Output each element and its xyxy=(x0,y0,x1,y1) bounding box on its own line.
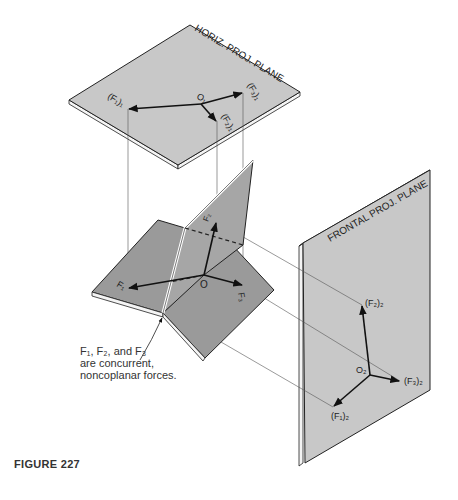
frontal-f2-label: (F₂)₂ xyxy=(365,298,384,308)
space-figure-planes xyxy=(92,160,274,361)
diagram-canvas: HORIZ. PROJ. PLANE O₁ (F₁)₁ (F₂)₁ (F₃)₁ … xyxy=(0,0,458,500)
forces-note: F₁, F₂, and F₃ are concurrent, noncoplan… xyxy=(80,345,177,381)
frontal-f3-label: (F₃)₂ xyxy=(404,376,423,386)
frontal-f1-label: (F₁)₂ xyxy=(331,411,350,421)
frontal-origin-label: O₂ xyxy=(356,365,367,375)
figure-caption: FIGURE 227 xyxy=(14,458,80,470)
note-line-2: are concurrent, xyxy=(80,357,177,369)
space-origin-label: O xyxy=(200,279,208,290)
note-line-1: F₁, F₂, and F₃ xyxy=(80,345,177,357)
note-line-3: noncoplanar forces. xyxy=(80,369,177,381)
horizontal-projection-plane xyxy=(69,25,300,169)
